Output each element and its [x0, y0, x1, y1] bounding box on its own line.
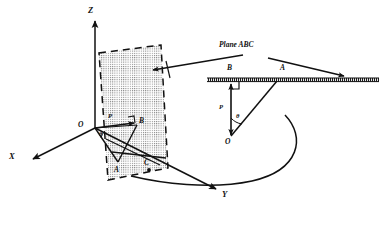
right-angle-marker-edge: [231, 82, 239, 89]
edge-on-plane-line: [207, 78, 379, 82]
vector-label-p-edge: P: [219, 104, 223, 111]
point-label-b-3d: B: [139, 117, 144, 125]
diagram-vector-layer: [0, 0, 388, 227]
angle-label-theta-3d: θ: [99, 131, 102, 138]
point-label-b-edge: B: [227, 64, 232, 72]
vector-label-p-3d: P: [108, 113, 112, 120]
point-label-o-edge: O: [225, 138, 230, 146]
angle-label-theta-edge: θ: [236, 113, 239, 120]
axis-x: [33, 128, 95, 159]
point-label-c-3d: C: [144, 159, 149, 167]
plane-abc-caption: Plane ABC: [219, 41, 254, 49]
point-c-marker: [147, 168, 151, 172]
point-label-a-3d: A: [114, 166, 119, 174]
axis-label-z: Z: [88, 6, 93, 15]
point-label-a-edge: A: [280, 64, 285, 72]
axis-label-x: X: [9, 152, 15, 161]
origin-label-3d: O: [78, 121, 83, 129]
figure-canvas: Z X Y O P θ B A C Plane ABC B A O P θ: [0, 0, 388, 227]
axis-label-y: Y: [222, 190, 227, 199]
